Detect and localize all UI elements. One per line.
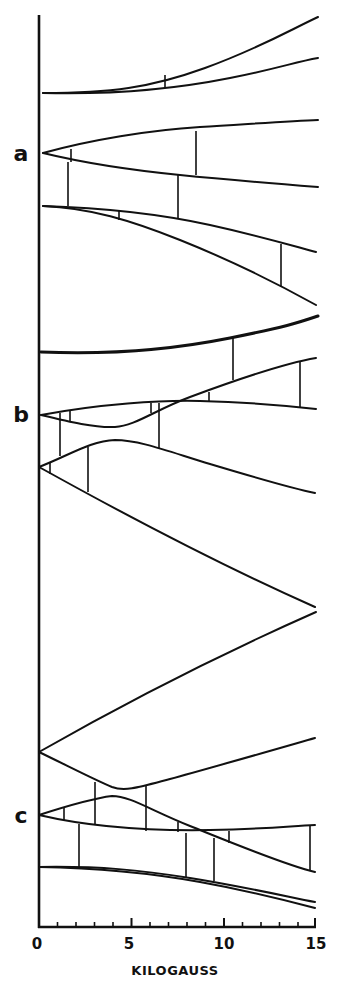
panel-label-b: b bbox=[13, 402, 29, 427]
x-axis-ticks bbox=[39, 918, 315, 927]
level-c3 bbox=[39, 796, 315, 872]
level-a4 bbox=[43, 153, 318, 187]
panel-label-a: a bbox=[14, 141, 29, 166]
panel-c-levels bbox=[39, 738, 315, 908]
x-tick-label-0: 0 bbox=[32, 935, 42, 953]
level-b5 bbox=[39, 467, 315, 607]
level-b2 bbox=[41, 401, 316, 415]
level-a6 bbox=[43, 206, 316, 305]
x-tick-label-10: 10 bbox=[214, 935, 235, 953]
level-a1 bbox=[43, 17, 318, 93]
level-c6 bbox=[39, 867, 315, 908]
level-b1 bbox=[41, 316, 318, 353]
energy-level-diagram: 0 5 10 15 KILOGAUSS a b c bbox=[0, 0, 341, 999]
level-b4 bbox=[39, 440, 315, 493]
level-a5 bbox=[43, 206, 316, 252]
panel-b-levels bbox=[39, 316, 318, 607]
x-axis-title: KILOGAUSS bbox=[131, 963, 218, 978]
panel-b-transitions bbox=[50, 338, 300, 492]
panel-label-c: c bbox=[14, 803, 27, 828]
x-tick-label-5: 5 bbox=[124, 935, 134, 953]
panel-a-levels bbox=[43, 17, 318, 305]
level-c1 bbox=[39, 612, 316, 752]
x-tick-label-15: 15 bbox=[306, 935, 327, 953]
level-b3 bbox=[41, 358, 316, 427]
level-a3 bbox=[43, 120, 318, 153]
level-c4 bbox=[39, 815, 315, 830]
level-c2 bbox=[39, 738, 315, 789]
